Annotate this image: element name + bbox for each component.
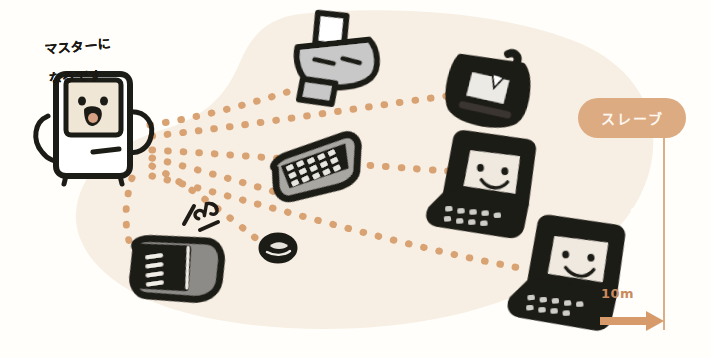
scale-distance-label: 10m — [601, 287, 634, 302]
master-caption-line2: なるです — [48, 68, 114, 86]
printer-output-paper — [297, 75, 338, 107]
phone-flip-lid — [134, 240, 194, 295]
master-right-foot — [120, 176, 122, 184]
master-left-foot — [64, 176, 66, 184]
illustration-canvas: マスターに なるです スレーブ 10m — [0, 0, 711, 358]
slave-label-text: スレーブ — [601, 108, 664, 128]
master-floppy-slot — [93, 149, 119, 152]
slave-label-pill: スレーブ — [578, 98, 686, 138]
slave-mouse — [261, 235, 295, 261]
master-tongue — [88, 113, 98, 123]
master-caption: マスターに なるです — [22, 22, 117, 119]
master-caption-line1: マスターに — [44, 36, 113, 57]
slave-mobile-phone — [127, 229, 226, 308]
